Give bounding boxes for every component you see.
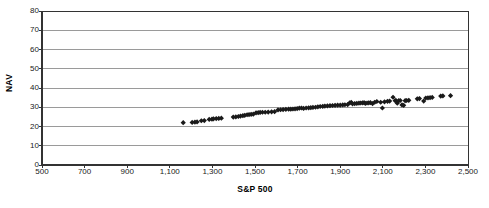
x-tick-label: 700 — [65, 168, 105, 176]
scatter-chart-figure: NAV 01020304050607080 5007009001,1001,30… — [0, 0, 489, 208]
x-tick-label: 2,300 — [405, 168, 445, 176]
x-tick-label: 1,300 — [192, 168, 232, 176]
x-axis-title: S&P 500 — [42, 184, 468, 194]
data-point-series — [181, 93, 454, 125]
x-axis-tick-labels: 5007009001,1001,3001,5001,7001,9002,1002… — [0, 168, 489, 182]
x-tick-label: 1,100 — [150, 168, 190, 176]
data-point — [202, 118, 207, 123]
x-tick-label: 2,100 — [363, 168, 403, 176]
data-point — [448, 93, 453, 98]
data-point — [181, 120, 186, 125]
x-tick-label: 2,500 — [448, 168, 488, 176]
x-tick-label: 1,700 — [278, 168, 318, 176]
axis-tick-marks — [39, 11, 468, 168]
x-tick-label: 1,500 — [235, 168, 275, 176]
data-point — [380, 105, 385, 110]
x-tick-label: 500 — [22, 168, 62, 176]
x-tick-label: 900 — [107, 168, 147, 176]
gridlines — [42, 11, 468, 146]
x-tick-label: 1,900 — [320, 168, 360, 176]
